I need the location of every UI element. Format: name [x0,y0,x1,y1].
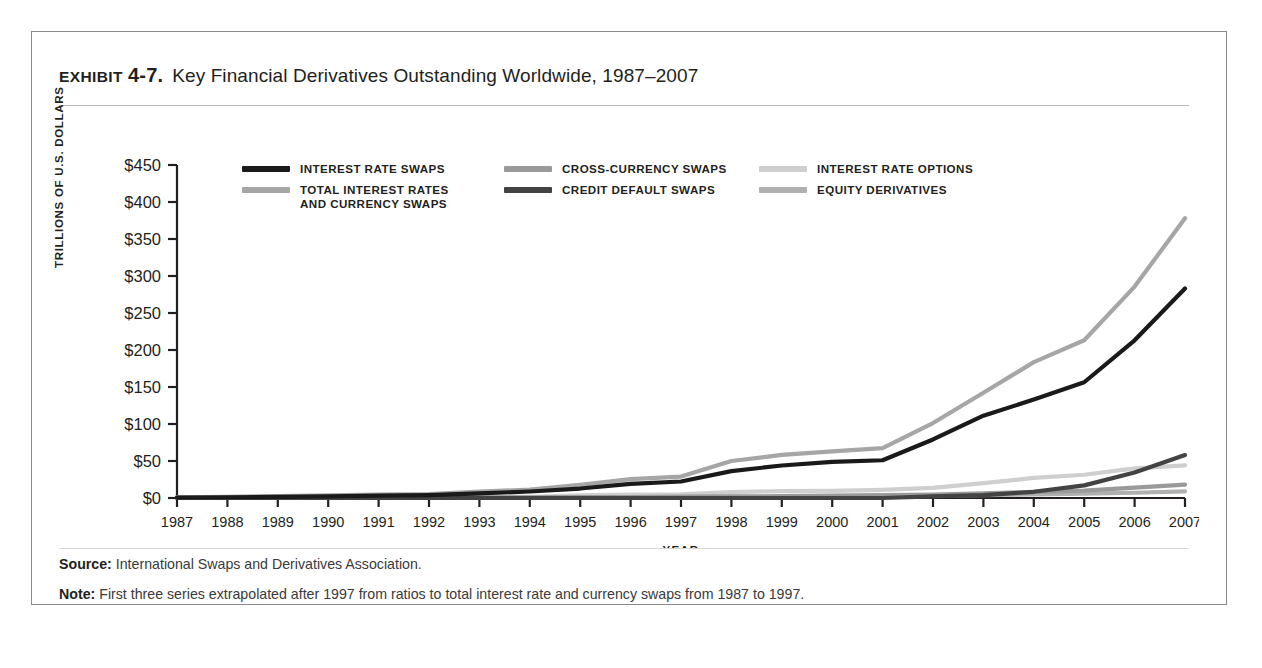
x-tick-label: 2005 [1068,514,1100,530]
title-divider [59,105,1189,106]
x-tick-label: 1992 [413,514,445,530]
page-title: Key Financial Derivatives Outstanding Wo… [172,65,698,87]
y-tick-label: $200 [124,341,161,359]
x-tick-label: 1998 [715,514,747,530]
series-line [177,289,1185,498]
x-tick-label: 1997 [665,514,697,530]
legend-label: CREDIT DEFAULT SWAPS [562,183,715,197]
exhibit-page: EXHIBIT 4-7. Key Financial Derivatives O… [0,0,1262,668]
source-text: International Swaps and Derivatives Asso… [116,556,422,572]
footer-divider [59,548,1189,549]
x-tick-label: 2004 [1018,514,1050,530]
y-tick-label: $100 [124,415,161,433]
y-tick-label: $350 [124,230,161,248]
y-tick-label: $400 [124,193,161,211]
x-tick-label: 1999 [766,514,798,530]
legend-label: CROSS-CURRENCY SWAPS [562,162,727,176]
x-tick-label: 1994 [514,514,546,530]
legend-swatch-icon [759,166,807,172]
legend-swatch-icon [504,166,552,172]
legend-item: INTEREST RATE OPTIONS [759,162,1049,176]
y-tick-label: $150 [124,378,161,396]
x-tick-label: 2001 [866,514,898,530]
legend-swatch-icon [759,187,807,193]
exhibit-title-row: EXHIBIT 4-7. Key Financial Derivatives O… [59,64,1189,94]
x-tick-label: 2003 [967,514,999,530]
x-tick-label: 2006 [1118,514,1150,530]
x-tick-label: 1991 [362,514,394,530]
source-label: Source: [59,556,112,572]
note-label: Note: [59,586,95,602]
legend-swatch-icon [242,187,290,193]
source-line: Source: International Swaps and Derivati… [59,555,1189,574]
x-tick-label: 2000 [816,514,848,530]
note-line: Note: First three series extrapolated af… [59,585,1189,604]
legend-label: EQUITY DERIVATIVES [817,183,947,197]
y-tick-label: $50 [133,452,161,470]
y-tick-label: $250 [124,304,161,322]
legend-swatch-icon [242,166,290,172]
legend-item: CROSS-CURRENCY SWAPS [504,162,754,176]
legend-swatch-icon [504,187,552,193]
x-tick-label: 2007 [1169,514,1199,530]
x-tick-label: 1993 [463,514,495,530]
note-text: First three series extrapolated after 19… [99,586,804,602]
exhibit-frame: EXHIBIT 4-7. Key Financial Derivatives O… [31,31,1227,605]
y-tick-label: $0 [143,489,161,507]
x-tick-label: 1989 [262,514,294,530]
legend-label: INTEREST RATE OPTIONS [817,162,973,176]
series-line [177,218,1185,497]
exhibit-kicker: EXHIBIT [59,68,123,86]
x-tick-label: 1987 [161,514,193,530]
x-tick-label: 1988 [211,514,243,530]
x-tick-label: 1990 [312,514,344,530]
legend-item: TOTAL INTEREST RATES AND CURRENCY SWAPS [242,183,497,211]
legend-item: CREDIT DEFAULT SWAPS [504,183,754,197]
chart-plot-area: TRILLIONS OF U.S. DOLLARS $0$50$100$150$… [59,118,1199,548]
y-tick-label: $450 [124,156,161,174]
x-tick-label: 1996 [614,514,646,530]
x-tick-label: 1995 [564,514,596,530]
y-tick-label: $300 [124,267,161,285]
legend-column-1: INTEREST RATE SWAPS TOTAL INTEREST RATES… [242,162,497,218]
legend-column-2: CROSS-CURRENCY SWAPS CREDIT DEFAULT SWAP… [504,162,754,204]
exhibit-number: 4-7. [128,64,163,87]
legend-column-3: INTEREST RATE OPTIONS EQUITY DERIVATIVES [759,162,1049,204]
legend-label: INTEREST RATE SWAPS [300,162,445,176]
x-tick-label: 2002 [917,514,949,530]
legend-item: EQUITY DERIVATIVES [759,183,1049,197]
legend-item: INTEREST RATE SWAPS [242,162,497,176]
footnotes: Source: International Swaps and Derivati… [59,555,1189,615]
legend-label: TOTAL INTEREST RATES AND CURRENCY SWAPS [300,183,449,211]
